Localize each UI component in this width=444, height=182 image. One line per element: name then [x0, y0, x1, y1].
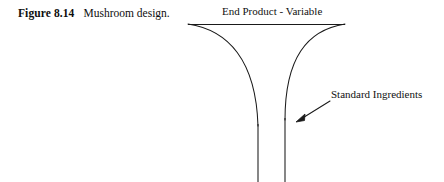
left-flare-curve [188, 24, 258, 126]
figure-container: Figure 8.14Mushroom design. End Product … [0, 0, 444, 182]
label-standard-ingredients: Standard Ingredients [331, 88, 422, 101]
label-end-product: End Product - Variable [222, 5, 322, 18]
right-flare-curve [285, 24, 345, 120]
arrow-pointer-icon [296, 101, 330, 122]
